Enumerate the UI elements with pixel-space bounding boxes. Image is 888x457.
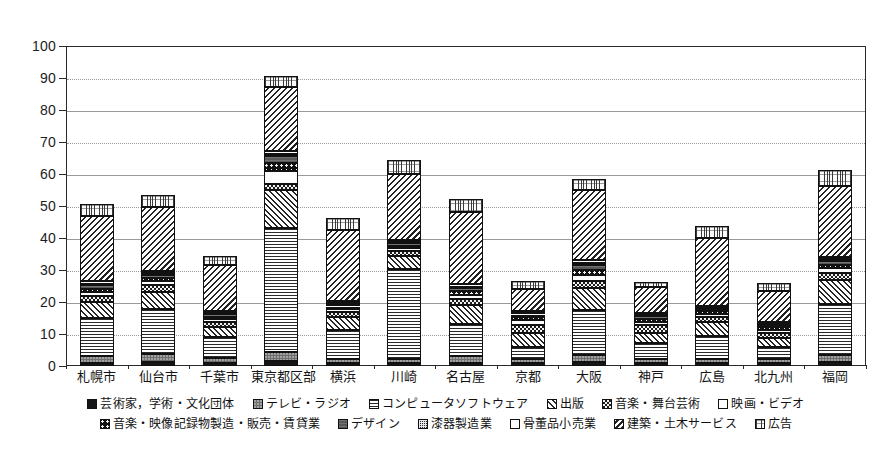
- legend-lacquerware-swatch-icon: [418, 419, 428, 429]
- legend-film-video[interactable]: 映画・ビデオ: [718, 397, 804, 411]
- bar-segment: [449, 324, 483, 356]
- bar-segment: [511, 315, 545, 318]
- bar-segment: [326, 309, 360, 312]
- y-tick-mark-0: [59, 366, 66, 367]
- bar-東京都区部[interactable]: [264, 76, 298, 366]
- legend-computer-software[interactable]: コンピュータソフトウェア: [369, 397, 528, 411]
- legend-artists[interactable]: 芸術家，学術・文化団体: [87, 397, 234, 411]
- bar-segment: [80, 281, 114, 284]
- x-tick-mark-10: [681, 365, 682, 369]
- bar-大阪[interactable]: [572, 178, 606, 366]
- legend-architecture-civil[interactable]: 建築・土木サービス: [614, 417, 737, 431]
- bar-segment: [695, 305, 729, 307]
- bar-segment: [449, 356, 483, 362]
- bar-segment: [203, 311, 237, 313]
- bar-北九州[interactable]: [757, 283, 791, 366]
- y-tick-label-30: 30: [4, 263, 56, 277]
- bar-segment: [634, 359, 668, 364]
- bar-segment: [387, 243, 421, 246]
- bar-segment: [141, 271, 175, 274]
- legend-lacquerware[interactable]: 漆器製造業: [418, 417, 492, 431]
- bar-千葉市[interactable]: [203, 256, 237, 366]
- y-tick-mark-70: [59, 142, 66, 143]
- bar-segment: [141, 292, 175, 310]
- legend-design-swatch-icon: [338, 419, 348, 429]
- bar-segment: [449, 284, 483, 287]
- bar-広島[interactable]: [695, 226, 729, 366]
- bar-segment: [634, 322, 668, 325]
- bar-segment: [203, 265, 237, 311]
- bar-segment: [387, 174, 421, 240]
- legend-film-video-swatch-icon: [718, 399, 728, 409]
- bar-segment: [80, 356, 114, 362]
- bar-segment: [695, 363, 729, 366]
- legend-publishing[interactable]: 出版: [547, 397, 584, 411]
- bar-仙台市[interactable]: [141, 195, 175, 366]
- bar-segment: [80, 204, 114, 215]
- x-tick-mark-12: [804, 365, 805, 369]
- bar-segment: [203, 358, 237, 364]
- legend-antiques-retail-label: 骨董品小売業: [523, 417, 596, 431]
- x-tick-mark-5: [374, 365, 375, 369]
- bar-segment: [572, 310, 606, 355]
- bar-segment: [511, 281, 545, 289]
- bar-名古屋[interactable]: [449, 199, 483, 366]
- bar-segment: [449, 363, 483, 366]
- bar-segment: [203, 363, 237, 366]
- bar-segment: [572, 190, 606, 260]
- legend-tv-radio[interactable]: テレビ・ラジオ: [253, 397, 351, 411]
- bar-segment: [264, 151, 298, 154]
- bar-segment: [572, 260, 606, 263]
- bar-segment: [634, 333, 668, 343]
- bar-segment: [141, 278, 175, 281]
- bar-segment: [80, 285, 114, 288]
- bar-segment: [818, 362, 852, 366]
- bar-川崎[interactable]: [387, 160, 421, 366]
- bar-segment: [326, 230, 360, 300]
- bar-segment: [511, 359, 545, 364]
- y-tick-mark-10: [59, 334, 66, 335]
- bar-segment: [141, 207, 175, 271]
- x-tick-mark-2: [189, 365, 190, 369]
- bar-segment: [326, 307, 360, 310]
- legend-music-video-media[interactable]: 音楽・映像記録物製造・販売・賃貸業: [100, 417, 320, 431]
- bar-京都[interactable]: [511, 281, 545, 366]
- x-label-福岡: 福岡: [804, 369, 866, 385]
- bar-札幌市[interactable]: [80, 204, 114, 366]
- legend-music-stage-arts[interactable]: 音楽・舞台芸術: [602, 397, 700, 411]
- legend-advertising[interactable]: 広告: [755, 417, 792, 431]
- bar-segment: [264, 163, 298, 171]
- bar-segment: [757, 291, 791, 321]
- legend-tv-radio-swatch-icon: [253, 399, 263, 409]
- bar-segment: [757, 359, 791, 364]
- bar-segment: [264, 352, 298, 362]
- bar-segment: [449, 199, 483, 212]
- y-tick-label-50: 50: [4, 199, 56, 213]
- stacked-bar-chart-figure: 0102030405060708090100 札幌市仙台市千葉市東京都区部横浜川…: [0, 0, 888, 457]
- bar-segment: [387, 251, 421, 256]
- legend-design[interactable]: デザイン: [338, 417, 400, 431]
- bar-segment: [326, 301, 360, 303]
- bar-segment: [572, 288, 606, 310]
- bar-segment: [326, 363, 360, 366]
- bar-segment: [203, 256, 237, 265]
- legend-antiques-retail[interactable]: 骨董品小売業: [510, 417, 596, 431]
- bar-segment: [757, 363, 791, 366]
- legend-music-video-media-label: 音楽・映像記録物製造・販売・賃貸業: [113, 417, 320, 431]
- legend-row-1: 芸術家，学術・文化団体テレビ・ラジオコンピュータソフトウェア出版音楽・舞台芸術映…: [28, 394, 864, 413]
- legend-music-video-media-swatch-icon: [100, 419, 110, 429]
- bar-福岡[interactable]: [818, 170, 852, 366]
- y-tick-mark-50: [59, 206, 66, 207]
- bar-segment: [141, 354, 175, 362]
- x-label-川崎: 川崎: [374, 369, 436, 385]
- bar-segment: [387, 240, 421, 242]
- bar-segment: [572, 362, 606, 366]
- bar-segment: [572, 265, 606, 270]
- bar-神戸[interactable]: [634, 282, 668, 366]
- y-tick-label-70: 70: [4, 135, 56, 149]
- bars-layer: [66, 46, 866, 366]
- bar-横浜[interactable]: [326, 218, 360, 366]
- bar-segment: [818, 355, 852, 362]
- legend-advertising-label: 広告: [768, 417, 792, 431]
- bar-segment: [511, 333, 545, 347]
